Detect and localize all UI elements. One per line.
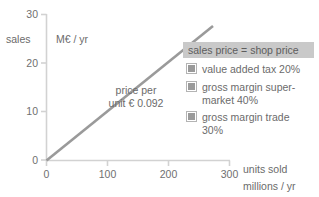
y-tick-label-10: 10 bbox=[6, 105, 38, 117]
legend-swatch-icon bbox=[187, 64, 196, 73]
x-tick-label-200: 200 bbox=[149, 168, 189, 180]
x-axis-label-line2: millions / yr bbox=[243, 180, 296, 192]
y-axis-label: sales bbox=[6, 33, 31, 45]
y-tick-label-20: 20 bbox=[6, 57, 38, 69]
legend-swatch-icon bbox=[187, 112, 196, 121]
legend-item-value-added-tax: value added tax 20% bbox=[187, 63, 314, 76]
legend-swatch-icon bbox=[187, 82, 196, 91]
price-per-unit-annotation: price per unit € 0.092 bbox=[88, 84, 184, 110]
legend-item-label: gross margin super-market 40% bbox=[202, 81, 306, 107]
legend-items: value added tax 20% gross margin super-m… bbox=[183, 63, 314, 137]
y-tick-label-0: 0 bbox=[6, 154, 38, 166]
annotation-line1: price per bbox=[88, 84, 184, 97]
chart-legend: sales price = shop price value added tax… bbox=[183, 42, 314, 142]
annotation-line2: unit € 0.092 bbox=[88, 97, 184, 110]
y-tick-label-30: 30 bbox=[6, 8, 38, 20]
legend-header: sales price = shop price bbox=[183, 42, 314, 58]
y-axis-ticks bbox=[41, 15, 47, 161]
x-tick-label-100: 100 bbox=[88, 168, 128, 180]
legend-item-label: gross margin trade 30% bbox=[202, 111, 306, 137]
chart-container: 30 20 10 0 sales M€ / yr 0 100 200 300 u… bbox=[0, 0, 319, 197]
x-axis-ticks bbox=[47, 161, 230, 167]
legend-item-label: value added tax 20% bbox=[202, 63, 300, 76]
legend-item-gross-margin-supermarket: gross margin super-market 40% bbox=[187, 81, 314, 107]
legend-item-gross-margin-trade: gross margin trade 30% bbox=[187, 111, 314, 137]
x-tick-label-0: 0 bbox=[27, 168, 67, 180]
y-axis-unit-label: M€ / yr bbox=[56, 33, 88, 45]
x-axis-label-line1: units sold bbox=[243, 163, 287, 175]
